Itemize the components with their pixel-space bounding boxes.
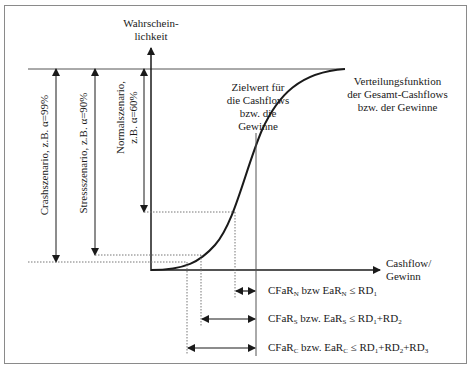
x-axis-label: Cashflow/ Gewinn: [386, 257, 431, 283]
eq-term: +RD: [377, 312, 398, 324]
distribution-function-label: Verteilungsfunktion der Gesamt-Cashflows…: [340, 75, 455, 114]
eq-term: +RD: [378, 341, 399, 353]
eq-term: CFaR: [268, 284, 294, 296]
target-label-line2: die Cashflows: [218, 94, 298, 107]
eq-sub: 3: [425, 347, 429, 355]
x-axis-label-line1: Cashflow/: [386, 257, 431, 270]
distribution-label-line2: der Gesamt-Cashflows: [340, 88, 455, 101]
y-axis-label-line2: lichkeit: [116, 30, 186, 43]
eq-term: ≤ RD: [347, 284, 374, 296]
distribution-label-line3: bzw. der Gewinne: [340, 101, 455, 114]
eq-term: CFaR: [268, 341, 294, 353]
target-label-line1: Zielwert für: [218, 81, 298, 94]
stress-scenario-label: Stressszenario, z.B. α=90%: [77, 78, 90, 228]
eq-sub: 2: [398, 318, 402, 326]
target-label-line4: Gewinne: [218, 120, 298, 133]
eq-term: CFaR: [268, 312, 294, 324]
normal-scenario-label: Normalszenario, z.B. α=60%: [114, 70, 140, 165]
eq-sub: 1: [373, 290, 377, 298]
eq-term: bzw. EaR: [298, 312, 343, 324]
target-label-line3: bzw. die: [218, 107, 298, 120]
equation-stress: CFaRS bzw. EaRS ≤ RD1+RD2: [268, 312, 402, 326]
y-axis-label-line1: Wahrschein-: [116, 17, 186, 30]
equation-crash: CFaRC bzw. EaRC ≤ RD1+RD2+RD3: [268, 341, 428, 355]
crash-scenario-label: Crashszenario, z.B. α=99%: [38, 80, 51, 230]
normal-scenario-line1: Normalszenario,: [114, 70, 127, 165]
normal-scenario-line2: z.B. α=60%: [127, 70, 140, 165]
equation-normal: CFaRN bzw EaRN ≤ RD1: [268, 284, 377, 298]
eq-term: ≤ RD: [346, 312, 373, 324]
x-axis-label-line2: Gewinn: [386, 270, 431, 283]
eq-term: ≤ RD: [348, 341, 375, 353]
distribution-label-line1: Verteilungsfunktion: [340, 75, 455, 88]
eq-term: bzw EaR: [299, 284, 342, 296]
eq-term: bzw. EaR: [298, 341, 343, 353]
y-axis-label: Wahrschein- lichkeit: [116, 17, 186, 43]
target-value-label: Zielwert für die Cashflows bzw. die Gewi…: [218, 81, 298, 133]
eq-term: +RD: [403, 341, 424, 353]
